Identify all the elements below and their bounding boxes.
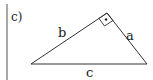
side-label-c: c <box>86 65 93 80</box>
right-angle-dot <box>105 18 107 20</box>
side-label-a: a <box>126 28 134 43</box>
part-label: c) <box>11 10 22 24</box>
side-label-b: b <box>58 25 66 40</box>
triangle-diagram: c) b a c <box>0 0 153 80</box>
